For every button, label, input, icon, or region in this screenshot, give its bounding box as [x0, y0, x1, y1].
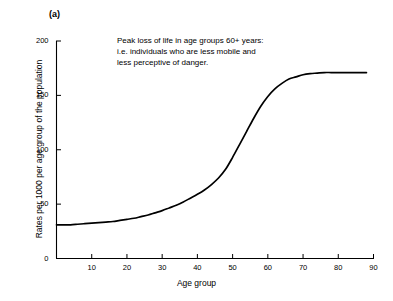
- x-tick-label: 20: [117, 263, 137, 272]
- x-tick-label: 30: [152, 263, 172, 272]
- x-tick-label: 50: [223, 263, 243, 272]
- y-axis-label: Rates per 1000 per age group of the popu…: [34, 34, 44, 264]
- data-curve: [57, 73, 367, 225]
- x-tick-label: 90: [364, 263, 384, 272]
- x-tick-label: 60: [258, 263, 278, 272]
- x-tick-label: 40: [187, 263, 207, 272]
- figure: (a) Peak loss of life in age groups 60+ …: [0, 0, 393, 301]
- plot-area: [0, 0, 393, 301]
- x-tick-label: 10: [82, 263, 102, 272]
- x-tick-label: 80: [328, 263, 348, 272]
- x-axis-label: Age group: [0, 278, 393, 288]
- x-tick-label: 70: [293, 263, 313, 272]
- axes: [56, 41, 374, 259]
